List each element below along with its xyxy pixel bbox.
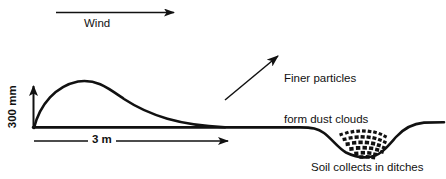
diagram-canvas — [0, 0, 446, 179]
height-scale-label: 300 mm — [6, 85, 20, 128]
distance-scale-label: 3 m — [88, 133, 116, 147]
dust-cloud-label-line2: form dust clouds — [284, 113, 368, 127]
dust-callout-arrow — [225, 56, 278, 100]
wind-erosion-diagram: Wind 300 mm 3 m Finer particles form dus… — [0, 0, 446, 179]
dust-cloud-label: Finer particles form dust clouds — [284, 45, 368, 154]
saltation-curve — [34, 81, 225, 128]
wind-label: Wind — [84, 17, 110, 31]
dust-cloud-label-line1: Finer particles — [284, 72, 368, 86]
soil-ditch-label: Soil collects in ditches — [311, 161, 424, 175]
